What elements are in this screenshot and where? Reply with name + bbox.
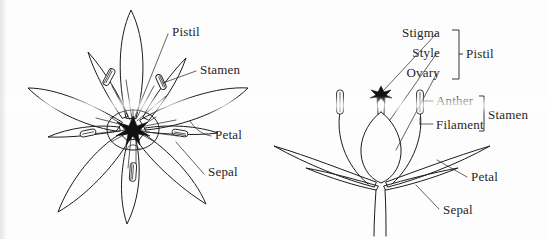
right-stigma bbox=[370, 86, 392, 103]
leader-sepal bbox=[176, 142, 204, 174]
right-ovary bbox=[361, 112, 401, 183]
right-label-stigma: Stigma bbox=[402, 25, 440, 40]
right-label-stamen: Stamen bbox=[488, 107, 528, 122]
right-stamens bbox=[337, 90, 424, 184]
left-label-petal: Petal bbox=[215, 127, 242, 142]
leader-sepal-right bbox=[416, 185, 439, 209]
left-outer-petals bbox=[28, 10, 248, 224]
right-anther-right bbox=[417, 90, 424, 114]
leader-ovary bbox=[396, 73, 437, 150]
left-label-pistil: Pistil bbox=[172, 24, 200, 39]
right-label-anther: Anther bbox=[436, 93, 474, 108]
right-label-style: Style bbox=[412, 45, 440, 60]
right-label-petal: Petal bbox=[471, 169, 498, 184]
flower-anatomy-figure: Pistil Stamen Petal Sepal bbox=[0, 0, 546, 239]
leader-pistil bbox=[134, 34, 168, 119]
right-stem bbox=[374, 190, 386, 236]
right-petals bbox=[274, 146, 490, 187]
left-flower-group: Pistil Stamen Petal Sepal bbox=[28, 10, 248, 224]
left-label-stamen: Stamen bbox=[200, 62, 240, 77]
leader-stigma bbox=[384, 33, 437, 90]
right-label-ovary: Ovary bbox=[407, 65, 441, 80]
right-flower-group: Stigma Style Ovary Pistil Anther Filamen… bbox=[274, 25, 528, 236]
right-anther-left bbox=[337, 90, 344, 114]
right-label-pistil: Pistil bbox=[466, 46, 494, 61]
bracket-pistil bbox=[452, 30, 463, 79]
left-label-sepal: Sepal bbox=[208, 164, 238, 179]
diagram-canvas: Pistil Stamen Petal Sepal bbox=[0, 0, 546, 239]
right-label-filament: Filament bbox=[436, 117, 484, 132]
right-label-sepal: Sepal bbox=[443, 202, 473, 217]
